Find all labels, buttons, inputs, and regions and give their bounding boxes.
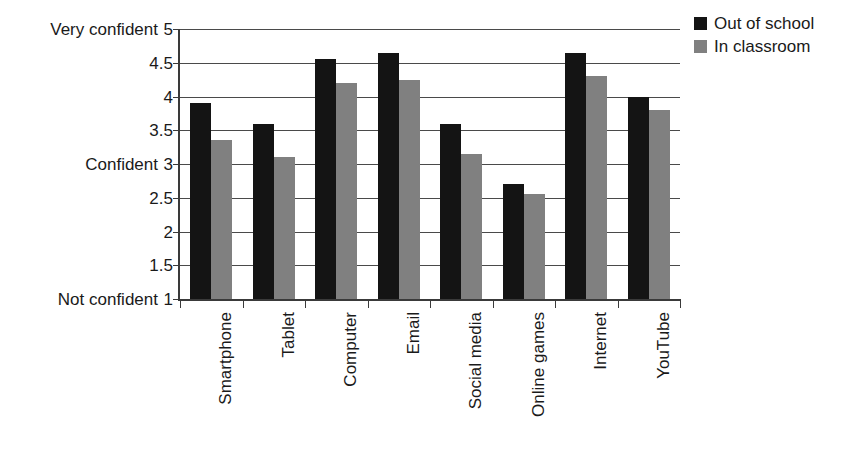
x-axis-label: Tablet	[280, 312, 297, 357]
legend-item: Out of school	[694, 12, 849, 35]
bar	[336, 83, 357, 299]
bar	[211, 140, 232, 299]
bar	[503, 184, 524, 299]
y-axis-tick-mark	[173, 29, 180, 30]
bar-chart: Very confidentConfidentNot confident 11.…	[0, 0, 851, 456]
x-axis-label: Social media	[467, 312, 484, 409]
y-axis-tick-label: 3	[164, 156, 173, 173]
bar	[253, 124, 274, 300]
bar-group	[440, 29, 482, 299]
y-axis-tick-label: 4	[164, 89, 173, 106]
y-axis-tick-labels: 11.522.533.544.55	[120, 0, 173, 456]
y-axis-tick-mark	[173, 299, 180, 300]
y-axis-tick-label: 1.5	[149, 257, 173, 274]
x-axis-label: Internet	[592, 312, 609, 370]
y-axis-tick-mark	[173, 198, 180, 199]
bar	[399, 80, 420, 299]
x-axis-label: Computer	[342, 312, 359, 387]
plot-area	[178, 29, 680, 301]
bar-group	[628, 29, 670, 299]
bar-group	[315, 29, 357, 299]
bar-group	[190, 29, 232, 299]
y-axis-tick-label: 2.5	[149, 190, 173, 207]
x-axis-tick-mark	[305, 299, 306, 308]
x-axis-labels: SmartphoneTabletComputerEmailSocial medi…	[178, 312, 678, 456]
y-axis-tick-mark	[173, 97, 180, 98]
legend-swatch-icon	[694, 17, 707, 30]
bar	[378, 53, 399, 299]
bar	[586, 76, 607, 299]
x-axis-tick-mark	[180, 299, 181, 308]
x-axis-tick-mark	[618, 299, 619, 308]
bar-group	[503, 29, 545, 299]
y-axis-tick-mark	[173, 232, 180, 233]
bar-group	[565, 29, 607, 299]
bar-group	[253, 29, 295, 299]
y-axis-tick-mark	[173, 265, 180, 266]
legend-swatch-icon	[694, 40, 707, 53]
bar	[628, 97, 649, 300]
x-axis-tick-mark	[243, 299, 244, 308]
y-axis-tick-mark	[173, 130, 180, 131]
legend-label: Out of school	[714, 15, 814, 32]
x-axis-label: Smartphone	[217, 312, 234, 405]
bar	[274, 157, 295, 299]
x-axis-tick-mark	[368, 299, 369, 308]
x-axis-tick-mark	[493, 299, 494, 308]
bar	[190, 103, 211, 299]
bar	[524, 194, 545, 299]
x-axis-label: YouTube	[655, 312, 672, 379]
legend-item: In classroom	[694, 35, 849, 58]
x-axis-tick-mark	[430, 299, 431, 308]
x-axis-label: Email	[405, 312, 422, 355]
x-axis-tick-mark	[680, 299, 681, 308]
bar	[440, 124, 461, 300]
bar	[649, 110, 670, 299]
y-axis-tick-label: 4.5	[149, 55, 173, 72]
chart-legend: Out of schoolIn classroom	[694, 12, 849, 58]
y-axis-tick-label: 1	[164, 291, 173, 308]
bar	[461, 154, 482, 299]
bar	[315, 59, 336, 299]
y-axis-tick-label: 3.5	[149, 122, 173, 139]
x-axis-tick-mark	[555, 299, 556, 308]
y-axis-tick-mark	[173, 164, 180, 165]
y-axis-tick-mark	[173, 63, 180, 64]
x-axis-label: Online games	[530, 312, 547, 417]
legend-label: In classroom	[714, 38, 810, 55]
y-axis-tick-label: 2	[164, 224, 173, 241]
bar-group	[378, 29, 420, 299]
y-axis-tick-label: 5	[164, 21, 173, 38]
bar	[565, 53, 586, 299]
